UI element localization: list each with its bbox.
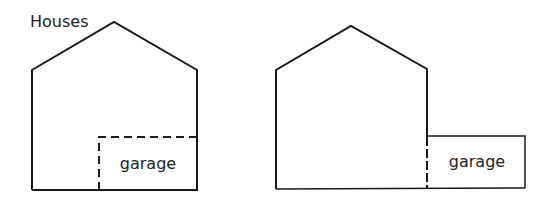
garage-right-label: garage (449, 152, 505, 171)
houses-diagram: Houses garage garage (0, 0, 546, 204)
house-left: garage (32, 22, 197, 190)
garage-left-label: garage (120, 154, 176, 173)
house-right: garage (276, 26, 525, 189)
ground-line (276, 188, 525, 189)
house-right-outline (276, 26, 427, 189)
diagram-title: Houses (30, 12, 88, 31)
